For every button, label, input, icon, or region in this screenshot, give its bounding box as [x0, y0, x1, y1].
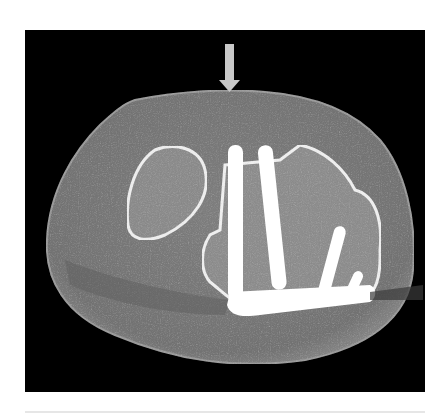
divider-line — [25, 411, 425, 413]
ct-scan-image — [25, 30, 425, 392]
faint-header-text — [40, 10, 410, 24]
down-arrow-icon — [219, 44, 240, 92]
ct-image-frame — [25, 30, 425, 392]
